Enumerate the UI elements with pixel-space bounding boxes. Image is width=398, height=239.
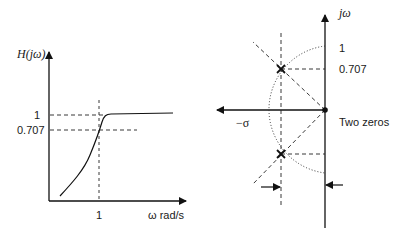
radial-line-upper: [253, 42, 325, 110]
x-tick-1: 1: [96, 209, 102, 221]
y-tick-1: 1: [34, 109, 40, 121]
y-tick-0707: 0.707: [17, 124, 45, 136]
real-axis-label: −σ: [236, 116, 250, 130]
radial-line-lower: [253, 110, 325, 184]
zero-annotation: Two zeros: [339, 116, 390, 128]
tick-1: 1: [339, 42, 345, 54]
x-axis-label: ω rad/s: [148, 209, 185, 221]
pole-zero-plot: jω 1 0.707 −σ Two zeros: [217, 6, 390, 228]
frequency-response-plot: H(jω) 1 0.707 1 ω rad/s: [16, 47, 186, 221]
tick-0707: 0.707: [339, 63, 367, 75]
y-axis-label: H(jω): [16, 47, 45, 61]
zero-origin: [322, 107, 328, 113]
response-curve: [60, 113, 173, 196]
diagram-canvas: H(jω) 1 0.707 1 ω rad/s: [0, 0, 398, 239]
imaginary-axis-label: jω: [337, 6, 351, 20]
